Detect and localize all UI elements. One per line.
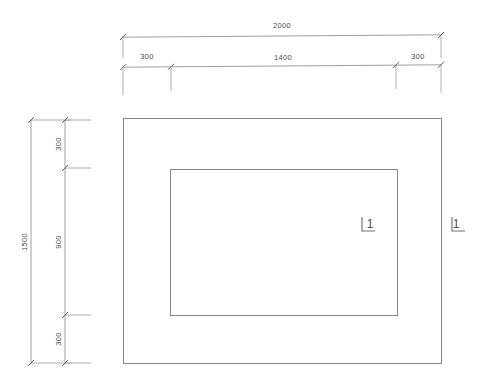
cad-drawing-svg: 2000 300 1400 300 1500 300 900 30: [0, 0, 484, 387]
outer-rectangle: [124, 119, 442, 364]
section-marker-inner: 1: [362, 217, 375, 231]
dimension-label-bottom-offset: 300: [54, 332, 63, 345]
chain-extension-group: [65, 120, 91, 363]
section-marker-label: 1: [367, 217, 374, 231]
vertical-overall-dimension: 1500: [20, 117, 71, 366]
section-marker-outer: 1: [452, 217, 465, 231]
dimension-label-right-offset: 300: [411, 52, 424, 61]
dimension-label-inner-height: 900: [54, 235, 63, 248]
chain-extension-group: [123, 65, 441, 95]
dimension-line: [123, 35, 441, 37]
section-marker-label: 1: [453, 217, 460, 231]
dimension-label-overall-height: 1500: [20, 233, 29, 251]
vertical-dimension-chain: 300 900 300: [54, 117, 91, 366]
dimension-label-inner-width: 1400: [274, 53, 292, 62]
dimension-label-left-offset: 300: [140, 52, 153, 61]
dimension-label-top-offset: 300: [54, 137, 63, 150]
inner-rectangle: [171, 170, 398, 316]
dimension-label-overall-width: 2000: [273, 21, 291, 30]
technical-drawing-canvas: 2000 300 1400 300 1500 300 900 30: [0, 0, 484, 387]
horizontal-dimension-chain: 300 1400 300: [120, 52, 444, 95]
